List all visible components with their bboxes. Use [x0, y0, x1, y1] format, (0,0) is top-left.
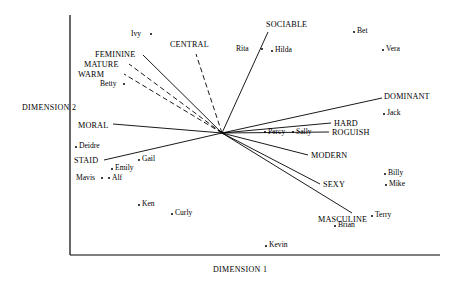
point-label-kevin: Kevin [269, 241, 288, 249]
point-label-alf: Alf [112, 174, 122, 182]
data-point-billy [384, 173, 386, 175]
point-label-mike: Mike [389, 180, 405, 188]
attribute-label-mature: MATURE [84, 61, 119, 69]
data-point-sally [292, 131, 294, 133]
data-point-kevin [265, 245, 267, 247]
attribute-label-sexy: SEXY [323, 181, 345, 189]
data-point-deidre [75, 146, 77, 148]
attribute-label-dominant: DOMINANT [384, 93, 430, 101]
data-point-hilda [271, 50, 273, 52]
data-point-emily [111, 168, 113, 170]
attribute-label-roguish: ROGUISH [332, 129, 369, 137]
point-label-rita: Rita [236, 45, 249, 53]
attribute-label-moral: MORAL [78, 122, 108, 130]
point-label-jack: Jack [387, 109, 401, 117]
point-label-deidre: Deidre [79, 142, 100, 150]
point-label-ken: Ken [142, 200, 155, 208]
vector-moral [113, 124, 222, 133]
attribute-label-hard: HARD [334, 120, 358, 128]
data-point-mavis [101, 177, 103, 179]
point-label-mavis: Mavis [76, 174, 95, 182]
attribute-label-central: CENTRAL [170, 41, 209, 49]
vector-sexy [222, 133, 320, 184]
vector-modern [222, 133, 308, 155]
point-label-terry: Terry [375, 211, 391, 219]
attribute-label-modern: MODERN [311, 152, 347, 160]
vector-mature [129, 64, 222, 133]
data-point-brian [334, 225, 336, 227]
data-point-jack [383, 113, 385, 115]
plot-canvas [0, 0, 454, 286]
vector-central [196, 54, 222, 133]
data-point-gail [138, 159, 140, 161]
point-label-sally: Sally [296, 128, 312, 136]
point-label-brian: Brian [338, 221, 355, 229]
point-label-ivy: Ivy [131, 30, 141, 38]
point-label-percy: Percy [268, 128, 285, 136]
point-label-emily: Emily [115, 164, 134, 172]
data-point-mike [385, 184, 387, 186]
point-label-betty: Betty [100, 80, 116, 88]
data-point-rita [261, 48, 263, 50]
attribute-label-feminine: FEMININE [95, 51, 135, 59]
y-axis-title: DIMENSION 2 [22, 104, 76, 112]
data-point-ken [138, 204, 140, 206]
x-axis-title: DIMENSION 1 [213, 266, 267, 274]
vector-masculine [222, 133, 352, 213]
data-point-betty [123, 83, 125, 85]
vector-warm [124, 74, 222, 133]
data-point-ivy [150, 33, 152, 35]
data-point-percy [264, 131, 266, 133]
data-point-curly [171, 213, 173, 215]
point-label-curly: Curly [175, 209, 192, 217]
vector-staid [104, 133, 222, 160]
attribute-label-staid: STAID [74, 157, 98, 165]
point-label-hilda: Hilda [275, 46, 292, 54]
vector-feminine [143, 55, 222, 133]
data-point-vera [382, 49, 384, 51]
biplot-figure: CENTRALFEMININEMATUREWARMSOCIABLEMORALDO… [0, 0, 454, 286]
point-label-vera: Vera [386, 45, 400, 53]
data-point-bet [353, 31, 355, 33]
point-label-bet: Bet [357, 27, 368, 35]
data-point-alf [108, 177, 110, 179]
attribute-label-warm: WARM [78, 71, 104, 79]
data-point-terry [371, 215, 373, 217]
point-label-gail: Gail [142, 155, 155, 163]
point-label-billy: Billy [388, 169, 403, 177]
attribute-label-sociable: SOCIABLE [266, 21, 307, 29]
